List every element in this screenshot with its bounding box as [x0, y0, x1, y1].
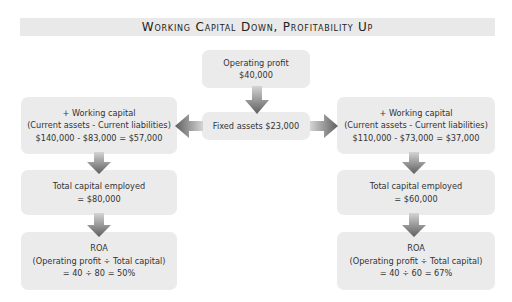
box-line: ROA [407, 242, 425, 255]
left-roa-box: ROA (Operating profit ÷ Total capital) =… [21, 232, 177, 290]
diagram-title: Working Capital Down, Profitability Up [142, 20, 373, 34]
arrow-right-icon [310, 114, 338, 138]
box-line: ROA [90, 242, 108, 255]
box-line: Operating profit [223, 57, 288, 70]
arrow-down-icon [402, 152, 426, 174]
box-line: $110,000 - $73,000 = $37,000 [352, 132, 479, 145]
arrow-down-icon [87, 152, 111, 174]
arrow-left-icon [175, 114, 203, 138]
box-line: (Operating profit ÷ Total capital) [350, 255, 483, 268]
title-banner: Working Capital Down, Profitability Up [20, 18, 495, 36]
left-total-capital-box: Total capital employed = $80,000 [21, 170, 177, 215]
box-line: $140,000 - $83,000 = $57,000 [35, 132, 162, 145]
left-working-capital-box: + Working capital (Current assets - Curr… [21, 97, 177, 154]
fixed-assets-box: Fixed assets $23,000 [202, 112, 310, 140]
arrow-down-icon [245, 86, 269, 114]
box-line: Fixed assets $23,000 [213, 120, 299, 133]
box-line: (Current assets - Current liabilities) [27, 119, 171, 132]
box-line: (Current assets - Current liabilities) [344, 119, 488, 132]
right-total-capital-box: Total capital employed = $60,000 [337, 170, 495, 215]
box-line: + Working capital [63, 107, 136, 120]
right-working-capital-box: + Working capital (Current assets - Curr… [337, 97, 495, 154]
box-line: $40,000 [239, 69, 273, 82]
box-line: Total capital employed [53, 180, 145, 193]
right-roa-box: ROA (Operating profit ÷ Total capital) =… [337, 232, 495, 290]
box-line: = 40 ÷ 60 = 67% [380, 267, 453, 280]
box-line: Total capital employed [370, 180, 462, 193]
arrow-down-icon [402, 213, 426, 237]
operating-profit-box: Operating profit $40,000 [202, 50, 310, 88]
box-line: (Operating profit ÷ Total capital) [33, 255, 166, 268]
box-line: = $80,000 [77, 193, 120, 206]
box-line: = $60,000 [394, 193, 437, 206]
box-line: = 40 ÷ 80 = 50% [63, 267, 136, 280]
arrow-down-icon [87, 213, 111, 237]
box-line: + Working capital [380, 107, 453, 120]
